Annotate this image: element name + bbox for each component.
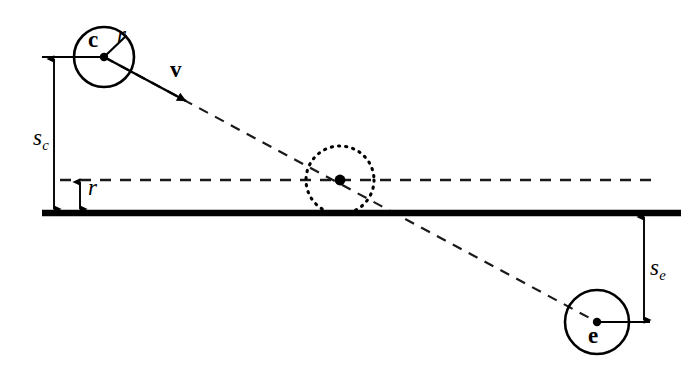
label-center-e: e [588,324,598,347]
label-center-c: c [88,28,98,51]
label-height-se: se [650,256,666,279]
label-height-sc-subscript: c [42,137,49,153]
geometry-diagram: c r v sc r se e [0,0,696,368]
label-height-se-base: s [650,255,659,280]
label-radius-height-r: r [88,176,97,199]
circle-c-center-dot [100,53,108,61]
label-height-sc-base: s [33,125,42,150]
diagram-canvas [0,0,696,368]
label-height-se-subscript: e [659,267,666,283]
label-height-sc: sc [33,126,49,149]
circle-contact-center-dot [335,175,346,186]
label-radius-r: r [117,23,126,46]
label-velocity-v: v [170,58,182,81]
